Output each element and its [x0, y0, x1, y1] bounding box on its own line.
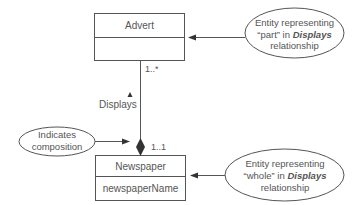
- annotation-composition-line2: composition: [32, 141, 83, 152]
- class-advert: Advert: [95, 14, 185, 61]
- annotation-composition-line1: Indicates: [38, 129, 76, 140]
- annotation-part-line2: “part” in: [257, 29, 292, 40]
- annotation-whole-line3: relationship: [261, 182, 310, 193]
- multiplicity-advert: 1..*: [145, 64, 159, 74]
- annotation-part-line3: relationship: [270, 40, 319, 51]
- uml-diagram: Advert Newspaper newspaperName 1..* 1..1…: [0, 0, 364, 205]
- annotation-whole-line1: Entity representing: [245, 158, 324, 169]
- annotation-part: Entity representing “part” in Displays r…: [245, 8, 344, 58]
- association-name: Displays: [99, 99, 137, 110]
- class-advert-name: Advert: [125, 20, 154, 31]
- annotation-whole-line2: “whole” in: [244, 170, 288, 181]
- arrow-left-icon: [188, 35, 196, 41]
- svg-text:“whole” in Displays: “whole” in Displays: [244, 170, 327, 181]
- class-newspaper-attribute: newspaperName: [103, 183, 179, 194]
- annotation-composition: Indicates composition: [19, 127, 95, 156]
- class-newspaper-name: Newspaper: [115, 161, 166, 172]
- multiplicity-newspaper: 1..1: [151, 142, 166, 152]
- annotation-part-emphasis: Displays: [293, 29, 332, 40]
- arrow-right-icon: [122, 139, 130, 145]
- composition-diamond-icon: [136, 138, 145, 156]
- svg-text:“part” in Displays: “part” in Displays: [257, 29, 331, 40]
- annotation-whole-emphasis: Displays: [287, 170, 326, 181]
- direction-arrow-icon: [128, 92, 133, 97]
- class-newspaper: Newspaper newspaperName: [96, 156, 186, 201]
- annotation-part-line1: Entity representing: [255, 17, 334, 28]
- arrow-left-icon: [190, 173, 198, 179]
- annotation-whole: Entity representing “whole” in Displays …: [225, 149, 344, 201]
